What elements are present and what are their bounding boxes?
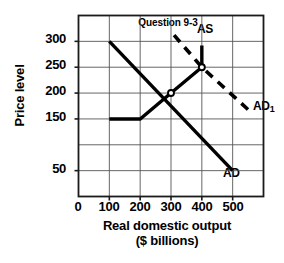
chart-figure: Price level 300 250 200 150 50 0 100 200… <box>0 0 284 263</box>
data-curves <box>109 35 252 170</box>
marker-equilibrium-initial <box>168 90 174 96</box>
x-axis-title-line1: Real domestic output <box>103 218 231 233</box>
x-axis-title: Real domestic output($ billions) <box>60 218 274 248</box>
axis-ticks <box>75 41 233 200</box>
marker-equilibrium-new <box>199 64 205 70</box>
curve-AD1 <box>174 35 253 114</box>
x-axis-title-line2: ($ billions) <box>60 233 274 248</box>
